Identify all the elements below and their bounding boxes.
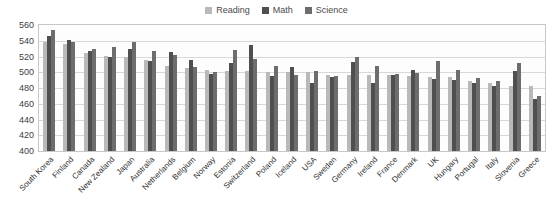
bar-science[interactable] xyxy=(294,75,298,151)
bar-group xyxy=(120,25,140,151)
y-axis-tick-label: 560 xyxy=(0,21,34,30)
bar-science[interactable] xyxy=(51,30,55,151)
bar-science[interactable] xyxy=(375,66,379,151)
bar-group xyxy=(403,25,423,151)
y-axis-tick-label: 480 xyxy=(0,84,34,93)
chart-legend: ReadingMathScience xyxy=(0,2,553,18)
bar-groups xyxy=(39,25,545,151)
x-axis-tick: Greece xyxy=(525,153,545,210)
bar-group xyxy=(79,25,99,151)
x-axis-tick: South Korea xyxy=(39,153,59,210)
y-axis-tick-label: 440 xyxy=(0,116,34,125)
bar-science[interactable] xyxy=(496,81,500,151)
bar-group xyxy=(363,25,383,151)
x-axis-tick: Denmark xyxy=(403,153,423,210)
legend-swatch-icon xyxy=(262,7,269,14)
legend-label: Science xyxy=(316,6,348,15)
bar-group xyxy=(221,25,241,151)
bar-group xyxy=(140,25,160,151)
x-axis-labels: South KoreaFinlandCanadaNew ZealandJapan… xyxy=(39,153,545,210)
bar-science[interactable] xyxy=(112,47,116,151)
bar-group xyxy=(444,25,464,151)
legend-label: Math xyxy=(273,6,293,15)
bar-group xyxy=(343,25,363,151)
x-axis-tick: Norway xyxy=(201,153,221,210)
bar-science[interactable] xyxy=(253,59,257,151)
x-axis-tick: Finland xyxy=(59,153,79,210)
legend-item-math[interactable]: Math xyxy=(262,6,293,15)
x-axis-tick: Hungary xyxy=(444,153,464,210)
bar-science[interactable] xyxy=(173,55,177,151)
x-axis-tick: Netherlands xyxy=(160,153,180,210)
bar-group xyxy=(100,25,120,151)
x-axis-tick: Iceland xyxy=(282,153,302,210)
bar-group xyxy=(383,25,403,151)
bar-group xyxy=(525,25,545,151)
bar-science[interactable] xyxy=(395,74,399,151)
y-axis-tick-label: 520 xyxy=(0,53,34,62)
x-axis-tick: UK xyxy=(423,153,443,210)
y-axis-tick-label: 500 xyxy=(0,68,34,77)
bar-group xyxy=(464,25,484,151)
y-axis-tick-label: 400 xyxy=(0,147,34,156)
bar-science[interactable] xyxy=(355,57,359,152)
bar-science[interactable] xyxy=(476,78,480,151)
bar-science[interactable] xyxy=(233,50,237,151)
x-axis-tick-label: Italy xyxy=(484,155,501,172)
bar-group xyxy=(241,25,261,151)
x-axis-tick: Japan xyxy=(120,153,140,210)
bar-science[interactable] xyxy=(274,66,278,151)
x-axis-tick: Ireland xyxy=(363,153,383,210)
bar-science[interactable] xyxy=(132,42,136,151)
bar-group xyxy=(181,25,201,151)
x-axis-tick: New Zealand xyxy=(100,153,120,210)
x-axis-tick: Portugal xyxy=(464,153,484,210)
bar-group xyxy=(39,25,59,151)
bar-science[interactable] xyxy=(334,76,338,151)
y-axis-labels: 560540520500480460440420400 xyxy=(0,24,34,152)
bar-science[interactable] xyxy=(436,61,440,151)
bar-science[interactable] xyxy=(456,70,460,151)
bar-group xyxy=(302,25,322,151)
bar-science[interactable] xyxy=(71,42,75,151)
legend-label: Reading xyxy=(216,6,250,15)
y-axis-tick-label: 460 xyxy=(0,100,34,109)
bar-science[interactable] xyxy=(193,67,197,151)
bar-chart: ReadingMathScience 560540520500480460440… xyxy=(0,0,553,210)
legend-item-reading[interactable]: Reading xyxy=(205,6,250,15)
legend-swatch-icon xyxy=(205,7,212,14)
bar-science[interactable] xyxy=(213,72,217,151)
bar-group xyxy=(262,25,282,151)
bar-group xyxy=(201,25,221,151)
bar-science[interactable] xyxy=(537,96,541,151)
x-axis-tick: Italy xyxy=(484,153,504,210)
bar-group xyxy=(160,25,180,151)
x-axis-tick: Belgium xyxy=(181,153,201,210)
bar-science[interactable] xyxy=(415,73,419,151)
legend-item-science[interactable]: Science xyxy=(305,6,348,15)
bar-group xyxy=(504,25,524,151)
x-axis-tick: Slovenia xyxy=(504,153,524,210)
x-axis-tick: Germany xyxy=(343,153,363,210)
x-axis-tick: Poland xyxy=(262,153,282,210)
bar-science[interactable] xyxy=(92,49,96,151)
x-axis-tick: USA xyxy=(302,153,322,210)
y-axis-tick-label: 420 xyxy=(0,131,34,140)
bar-group xyxy=(282,25,302,151)
bar-science[interactable] xyxy=(517,63,521,151)
bar-group xyxy=(484,25,504,151)
bar-group xyxy=(59,25,79,151)
bar-science[interactable] xyxy=(314,71,318,151)
x-axis-tick-label: UK xyxy=(426,155,440,169)
x-axis-tick: Switzerland xyxy=(241,153,261,210)
bar-group xyxy=(322,25,342,151)
bar-group xyxy=(423,25,443,151)
bar-science[interactable] xyxy=(152,51,156,151)
y-axis-tick-label: 540 xyxy=(0,37,34,46)
legend-swatch-icon xyxy=(305,7,312,14)
